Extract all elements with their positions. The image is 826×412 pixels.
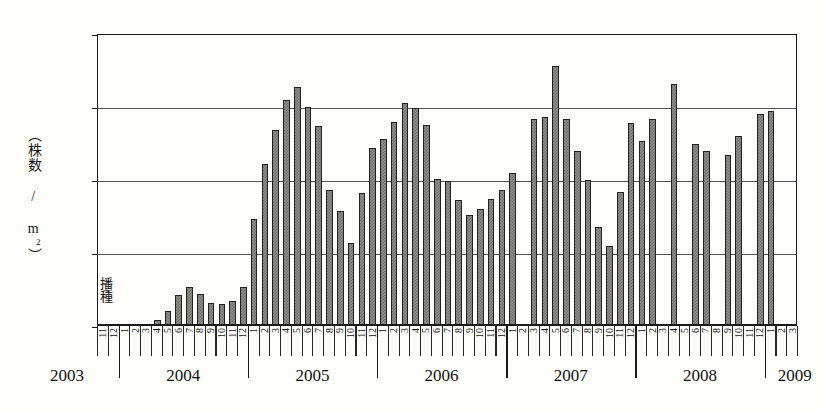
bar — [434, 179, 441, 326]
year-label: 2006 — [425, 366, 459, 386]
bar — [326, 190, 333, 326]
year-label: 2004 — [166, 366, 200, 386]
bar — [725, 155, 732, 326]
bar — [585, 180, 592, 326]
bar — [488, 199, 495, 326]
y-axis-title: （株数 / m2） — [18, 120, 48, 270]
y-axis-tick-mark — [92, 254, 98, 255]
bar — [402, 103, 409, 326]
year-label: 2007 — [554, 366, 588, 386]
year-separator — [119, 326, 120, 378]
bar — [552, 66, 559, 326]
bar — [359, 193, 366, 326]
bar — [703, 151, 710, 326]
bar — [348, 243, 355, 326]
bar — [369, 148, 376, 326]
plot-area — [97, 34, 797, 326]
bar — [735, 136, 742, 326]
plot-inner — [98, 35, 796, 326]
bar — [283, 100, 290, 326]
bar — [240, 287, 247, 326]
bar — [445, 181, 452, 326]
bar — [305, 107, 312, 326]
bar — [262, 164, 269, 326]
sowing-annotation: 播種 — [99, 277, 112, 303]
year-separator — [248, 326, 249, 378]
bar — [380, 139, 387, 326]
y-axis-title-text: （株数 / m2） — [23, 128, 44, 263]
chart-figure: （株数 / m2） 播種 111212345678910111212345678… — [0, 0, 826, 412]
bar — [294, 87, 301, 326]
bar — [272, 130, 279, 326]
bar — [197, 294, 204, 326]
bar — [649, 119, 656, 326]
year-separator — [377, 326, 378, 378]
bar — [186, 287, 193, 326]
x-axis-year-labels: 2003200420052006200720082009 — [97, 326, 797, 386]
year-separator — [506, 326, 507, 378]
bar — [175, 295, 182, 326]
bar — [412, 108, 419, 326]
year-label: 2008 — [683, 366, 717, 386]
bar — [606, 246, 613, 326]
bar — [563, 119, 570, 326]
bar — [251, 219, 258, 326]
bar — [617, 192, 624, 326]
bar — [455, 200, 462, 326]
bar — [315, 126, 322, 326]
year-label: 2005 — [295, 366, 329, 386]
bar — [509, 173, 516, 326]
bar — [671, 84, 678, 326]
year-separator — [765, 326, 766, 378]
bar — [542, 117, 549, 326]
bar — [628, 123, 635, 326]
y-axis-tick-mark — [92, 35, 98, 36]
bar — [466, 215, 473, 326]
bar — [391, 122, 398, 326]
y-axis-tick-mark — [92, 181, 98, 182]
bar — [208, 303, 215, 326]
bar — [229, 301, 236, 326]
bar — [757, 114, 764, 326]
bar — [639, 141, 646, 326]
bar — [531, 119, 538, 326]
year-label: 2003 — [50, 366, 84, 386]
bar — [477, 209, 484, 326]
bar — [219, 304, 226, 326]
y-axis-tick-mark — [92, 108, 98, 109]
bar — [595, 227, 602, 326]
year-separator — [635, 326, 636, 378]
bar — [423, 125, 430, 326]
gridline — [98, 108, 796, 109]
bar — [499, 190, 506, 326]
bar — [768, 111, 775, 326]
bar — [574, 151, 581, 326]
year-label: 2009 — [778, 366, 812, 386]
bar — [337, 211, 344, 326]
bar — [692, 144, 699, 327]
